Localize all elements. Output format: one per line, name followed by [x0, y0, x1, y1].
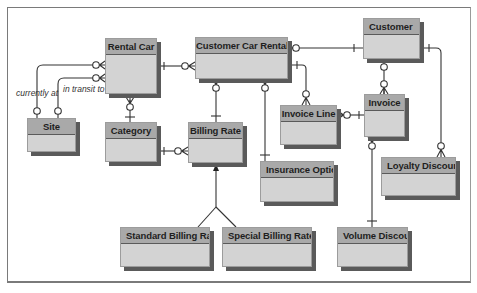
- entity-title: Category: [106, 123, 156, 139]
- entity-title: Volume Discount: [338, 228, 407, 244]
- entity-site[interactable]: Site: [27, 118, 76, 152]
- entity-special-billing-rate[interactable]: Special Billing Rate: [222, 227, 312, 267]
- entity-title: Insurance Option: [261, 162, 333, 178]
- entity-loyalty-discount[interactable]: Loyalty Discount: [381, 157, 456, 196]
- entity-title: Standard Billing Rate: [121, 228, 209, 244]
- entity-invoice[interactable]: Invoice: [364, 94, 405, 137]
- label-in-transit-to: in transit to: [63, 84, 105, 94]
- entity-rental-car[interactable]: Rental Car: [105, 38, 157, 94]
- entity-title: Rental Car: [106, 39, 156, 55]
- entity-title: Site: [28, 119, 75, 135]
- entity-title: Customer: [364, 19, 419, 35]
- entity-category[interactable]: Category: [105, 122, 157, 162]
- entity-insurance-option[interactable]: Insurance Option: [260, 161, 334, 202]
- entity-title: Special Billing Rate: [223, 228, 311, 244]
- entity-standard-billing-rate[interactable]: Standard Billing Rate: [120, 227, 210, 267]
- entity-title: Customer Car Rental: [196, 38, 287, 54]
- entity-invoice-line[interactable]: Invoice Line: [280, 105, 337, 145]
- entity-title: Invoice: [365, 95, 404, 111]
- entity-volume-discount[interactable]: Volume Discount: [337, 227, 408, 267]
- label-currently-at: currently at: [16, 88, 58, 98]
- entity-customer-car-rental[interactable]: Customer Car Rental: [195, 37, 288, 79]
- entity-title: Billing Rate: [189, 123, 242, 139]
- entity-customer[interactable]: Customer: [363, 18, 420, 59]
- entity-title: Invoice Line: [281, 106, 336, 122]
- entity-title: Loyalty Discount: [382, 158, 455, 174]
- entity-billing-rate[interactable]: Billing Rate: [188, 122, 243, 163]
